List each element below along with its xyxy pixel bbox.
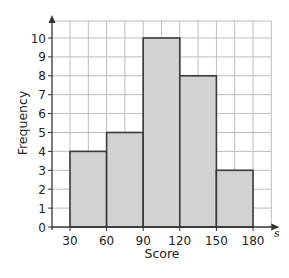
y-tick-label: 10 xyxy=(31,32,46,46)
x-axis-title: Score xyxy=(144,246,179,261)
y-tick-label: 0 xyxy=(38,221,46,235)
histogram-bar xyxy=(180,76,217,227)
histogram-bar xyxy=(70,151,107,227)
histogram-bar xyxy=(216,170,253,227)
histogram-bar xyxy=(107,133,144,228)
y-tick-labels: 012345678910 xyxy=(31,32,52,235)
x-tick-label: 180 xyxy=(242,234,265,248)
y-tick-label: 3 xyxy=(38,164,46,178)
histogram-chart: 012345678910 306090120150180 Score Frequ… xyxy=(0,0,289,278)
x-variable-label: s xyxy=(274,227,280,240)
x-tick-label: 30 xyxy=(62,234,77,248)
y-axis-title: Frequency xyxy=(15,90,30,155)
y-tick-label: 4 xyxy=(38,145,46,159)
x-tick-labels: 306090120150180 xyxy=(62,227,264,248)
histogram-bar xyxy=(143,38,180,227)
x-tick-label: 150 xyxy=(205,234,228,248)
y-axis-arrow-icon xyxy=(49,15,56,23)
y-tick-label: 6 xyxy=(38,107,46,121)
y-tick-label: 7 xyxy=(38,88,46,102)
y-tick-label: 8 xyxy=(38,69,46,83)
x-tick-label: 60 xyxy=(99,234,114,248)
y-tick-label: 2 xyxy=(38,183,46,197)
y-tick-label: 1 xyxy=(38,202,46,216)
y-tick-label: 9 xyxy=(38,50,46,64)
y-tick-label: 5 xyxy=(38,126,46,140)
